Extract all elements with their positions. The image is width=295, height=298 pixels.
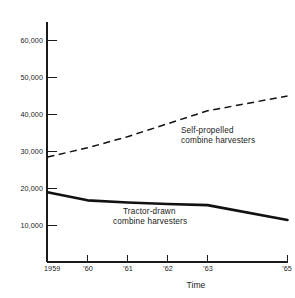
x-tick-label-1965: '65 (282, 264, 292, 273)
x-tick-label-1961: '61 (123, 264, 133, 273)
y-tick-label-10000: 10,000 (20, 221, 43, 230)
y-tick-label-50000: 50,000 (20, 73, 43, 82)
y-tick-group (47, 41, 57, 226)
series-line-self-propelled (48, 96, 288, 157)
y-tick-label-20000: 20,000 (20, 184, 43, 193)
y-tick-label-60000: 60,000 (20, 36, 43, 45)
chart-canvas: 60,000 50,000 40,000 30,000 20,000 10,00… (0, 0, 295, 298)
annotation-self-propelled-line1: Self-propelled (181, 126, 234, 135)
x-tick-label-1960: '60 (83, 264, 93, 273)
annotation-self-propelled: Self-propelled combine harvesters (181, 126, 255, 145)
annotation-tractor-drawn-line2: combine harvesters (113, 217, 187, 226)
annotation-tractor-drawn-line1: Tractor-drawn (123, 207, 176, 216)
annotation-tractor-drawn: Tractor-drawn combine harvesters (113, 207, 187, 226)
x-tick-group (48, 255, 288, 262)
x-tick-label-1959: 1959 (44, 264, 60, 273)
x-axis-title: Time (187, 280, 206, 290)
x-tick-label-1962: '62 (163, 264, 173, 273)
y-tick-label-30000: 30,000 (20, 147, 43, 156)
y-tick-label-40000: 40,000 (20, 110, 43, 119)
x-tick-label-1963: '63 (203, 264, 213, 273)
annotation-self-propelled-line2: combine harvesters (181, 136, 255, 145)
line-chart: 60,000 50,000 40,000 30,000 20,000 10,00… (0, 0, 295, 298)
